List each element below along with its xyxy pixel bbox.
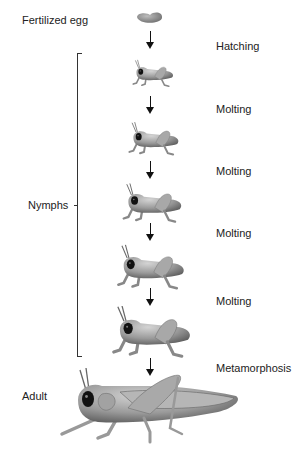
transition-molting-1: Molting [216, 103, 251, 115]
transition-molting-2: Molting [216, 165, 251, 177]
nymphs-label: Nymphs [28, 199, 68, 211]
adult-label: Adult [22, 390, 47, 402]
transition-molting-4: Molting [216, 295, 251, 307]
egg-icon [134, 10, 166, 28]
nymph-stage-5-icon [98, 306, 208, 358]
nymph-stage-4-icon [106, 244, 198, 290]
nymph-stage-2-icon [118, 120, 190, 162]
transition-molting-3: Molting [216, 227, 251, 239]
nymphs-bracket [77, 53, 84, 357]
transition-hatching: Hatching [216, 40, 259, 52]
bracket-notch [74, 205, 77, 206]
adult-grasshopper-icon [58, 368, 244, 446]
nymph-stage-1-icon [122, 57, 182, 97]
nymph-stage-3-icon [112, 182, 194, 226]
egg-label: Fertilized egg [22, 14, 88, 26]
